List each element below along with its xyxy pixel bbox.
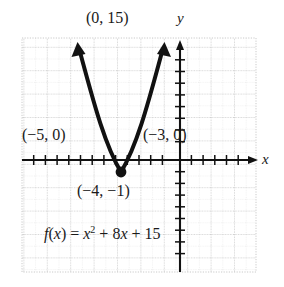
- equation-rest: + 8: [95, 225, 120, 242]
- left-root-label: (−5, 0): [22, 127, 66, 143]
- equation-tail: + 15: [128, 225, 161, 242]
- vertex-label: (−4, −1): [77, 183, 130, 199]
- equation-equals: =: [66, 225, 83, 242]
- equation-x2: x: [120, 225, 127, 242]
- y-axis-label: y: [177, 11, 184, 26]
- coordinate-plane-svg: [0, 0, 284, 287]
- graph-figure: (0, 15) y (−5, 0) (−3, 0) x (−4, −1) f(x…: [0, 0, 284, 287]
- right-root-label: (−3, 0): [143, 127, 187, 143]
- vertex-point: [116, 167, 127, 178]
- equation-label: f(x) = x2 + 8x + 15: [44, 226, 161, 242]
- x-axis-label: x: [262, 152, 269, 167]
- equation-var: x: [54, 225, 61, 242]
- y-intercept-label: (0, 15): [86, 10, 129, 26]
